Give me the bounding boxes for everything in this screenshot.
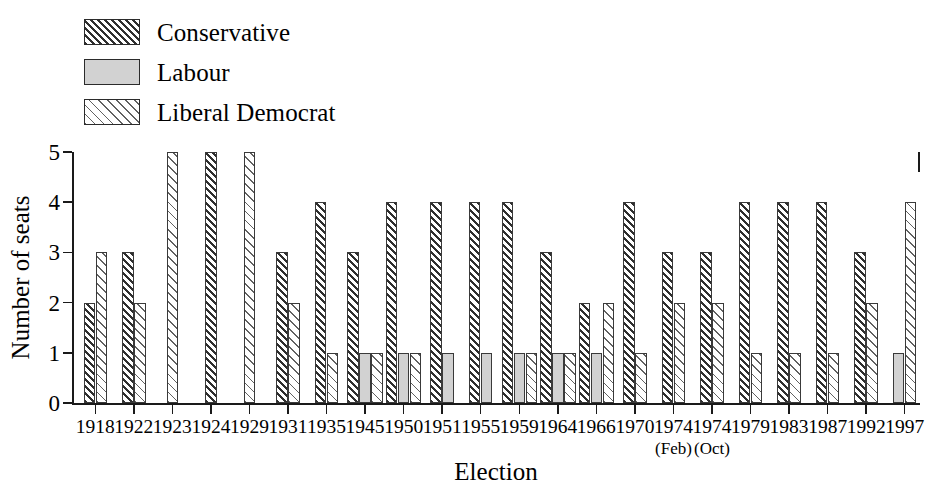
bar-conservative-1992 [854, 252, 866, 403]
x-tick-label-2: 1923 [153, 417, 192, 437]
y-tick-0 [63, 402, 72, 404]
legend-swatch-conservative [84, 19, 140, 45]
x-tick-label-3: 1924 [191, 417, 230, 437]
bar-conservative-1970 [623, 202, 635, 403]
x-axis-title: Election [72, 459, 920, 484]
y-tick-5 [63, 151, 72, 153]
x-tick-2 [172, 403, 174, 414]
x-tick-label-12: 1964 [538, 417, 577, 437]
bar-labour-1964 [552, 353, 564, 403]
x-tick-label-19: 1987 [808, 417, 847, 437]
bar-labour-1966 [591, 353, 603, 403]
legend-swatch-liberal-democrat [84, 99, 140, 125]
legend-label-labour: Labour [157, 60, 230, 85]
x-tick-16 [711, 403, 713, 414]
x-tick-label-7: 1945 [346, 417, 385, 437]
bar-conservative-1918 [84, 303, 96, 403]
x-tick-label-1: 1922 [114, 417, 153, 437]
x-tick-label-16: 1974 [693, 417, 732, 437]
y-tick-label-0: 0 [32, 392, 60, 415]
x-tick-label-18: 1983 [770, 417, 809, 437]
bar-liberal-democrat-1950 [410, 353, 422, 403]
bar-liberal-democrat-1931 [288, 303, 300, 403]
bar-conservative-1950 [386, 202, 398, 403]
x-tick-3 [210, 403, 212, 414]
legend-item-conservative: Conservative [84, 12, 336, 52]
x-tick-0 [95, 403, 97, 414]
y-tick-3 [63, 252, 72, 254]
y-tick-label-4: 4 [32, 191, 60, 214]
x-tick-5 [287, 403, 289, 414]
bar-liberal-democrat-1964 [564, 353, 576, 403]
bar-liberal-democrat-1970 [635, 353, 647, 403]
x-tick-4 [249, 403, 251, 414]
y-tick-1 [63, 352, 72, 354]
legend-label-liberal-democrat: Liberal Democrat [157, 100, 336, 125]
legend-item-labour: Labour [84, 52, 336, 92]
y-tick-label-1: 1 [32, 342, 60, 365]
bar-liberal-democrat-1987 [828, 353, 840, 403]
x-tick-15 [673, 403, 675, 414]
bar-conservative-1974 [700, 252, 712, 403]
bar-liberal-democrat-1945 [371, 353, 383, 403]
x-tick-label-0: 1918 [76, 417, 115, 437]
bar-labour-1950 [398, 353, 410, 403]
bar-labour-1945 [359, 353, 371, 403]
x-tick-7 [364, 403, 366, 414]
x-tick-label-20: 1992 [847, 417, 886, 437]
bar-liberal-democrat-1923 [167, 152, 179, 403]
y-axis-title: Number of seats [6, 152, 36, 403]
x-tick-sublabel-16: (Oct) [694, 440, 730, 457]
right-axis-stub [918, 152, 920, 172]
bar-conservative-1955 [469, 202, 481, 403]
bar-conservative-1974 [662, 252, 674, 403]
bar-liberal-democrat-1959 [526, 353, 538, 403]
bar-conservative-1951 [430, 202, 442, 403]
x-tick-6 [326, 403, 328, 414]
x-tick-9 [441, 403, 443, 414]
x-tick-1 [133, 403, 135, 414]
y-tick-2 [63, 302, 72, 304]
y-tick-label-5: 5 [32, 141, 60, 164]
x-tick-17 [750, 403, 752, 414]
x-tick-label-4: 1929 [230, 417, 269, 437]
y-tick-label-2: 2 [32, 292, 60, 315]
x-tick-label-17: 1979 [731, 417, 770, 437]
legend-label-conservative: Conservative [157, 20, 290, 45]
x-tick-sublabel-15: (Feb) [655, 440, 692, 457]
bar-liberal-democrat-1992 [866, 303, 878, 403]
bar-conservative-1922 [122, 252, 134, 403]
x-tick-18 [788, 403, 790, 414]
y-axis-line [72, 152, 74, 403]
bar-liberal-democrat-1974 [712, 303, 724, 403]
bar-liberal-democrat-1974 [674, 303, 686, 403]
bar-liberal-democrat-1997 [905, 202, 917, 403]
bar-labour-1959 [514, 353, 526, 403]
bar-liberal-democrat-1929 [244, 152, 256, 403]
x-tick-14 [634, 403, 636, 414]
bar-labour-1955 [481, 353, 493, 403]
legend-item-liberal-democrat: Liberal Democrat [84, 92, 336, 132]
x-tick-label-15: 1974 [654, 417, 693, 437]
bar-conservative-1964 [540, 252, 552, 403]
x-tick-21 [904, 403, 906, 414]
bar-liberal-democrat-1966 [603, 303, 615, 403]
bar-conservative-1931 [276, 252, 288, 403]
bar-conservative-1979 [739, 202, 751, 403]
bar-conservative-1966 [579, 303, 591, 403]
bar-labour-1951 [442, 353, 454, 403]
x-tick-label-21: 1997 [885, 417, 924, 437]
bar-conservative-1935 [315, 202, 327, 403]
x-tick-label-8: 1950 [384, 417, 423, 437]
plot-area: Number of seats Election 012345 19181922… [72, 152, 920, 403]
y-tick-label-3: 3 [32, 241, 60, 264]
x-tick-19 [827, 403, 829, 414]
x-tick-13 [596, 403, 598, 414]
bar-conservative-1959 [502, 202, 514, 403]
bar-conservative-1945 [347, 252, 359, 403]
legend-swatch-labour [84, 59, 140, 85]
bar-liberal-democrat-1979 [751, 353, 763, 403]
bar-liberal-democrat-1935 [327, 353, 339, 403]
x-tick-20 [865, 403, 867, 414]
